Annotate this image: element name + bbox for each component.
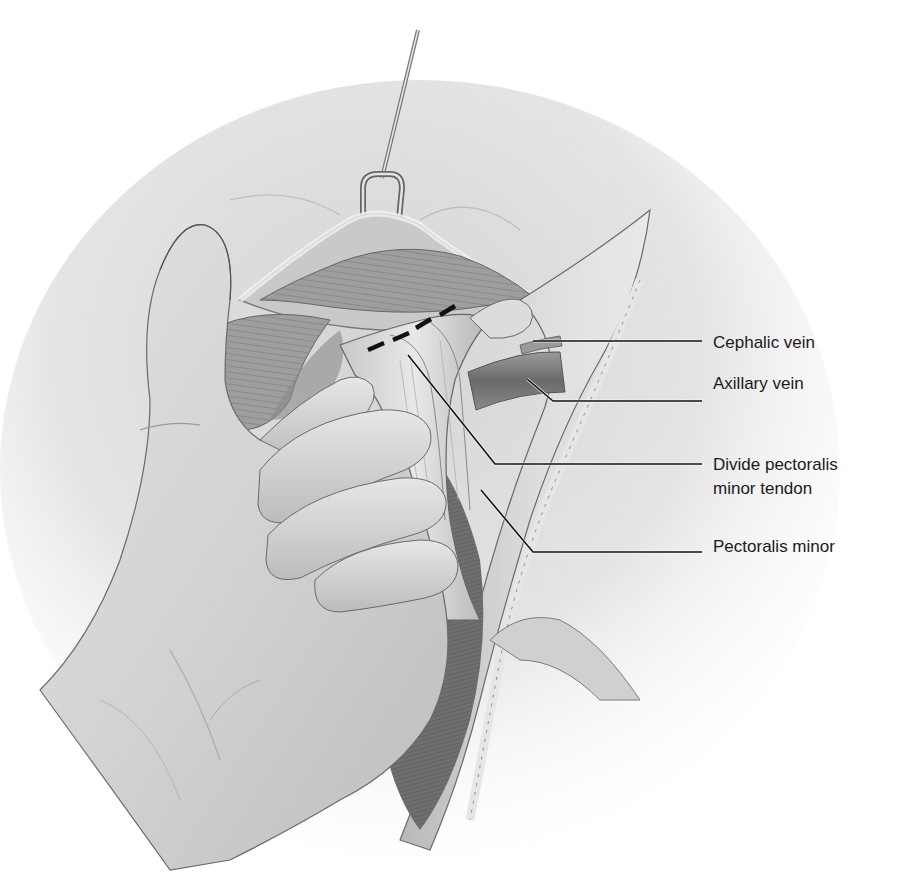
- label-cephalic-vein: Cephalic vein: [713, 331, 815, 355]
- label-divide-pectoralis-minor-tendon: Divide pectoralis minor tendon: [713, 453, 838, 501]
- label-pectoralis-minor: Pectoralis minor: [713, 535, 835, 559]
- label-text: Cephalic vein: [713, 331, 815, 355]
- surgical-illustration: [0, 0, 907, 895]
- label-axillary-vein: Axillary vein: [713, 372, 804, 396]
- label-text: Axillary vein: [713, 372, 804, 396]
- label-text: Divide pectoralis: [713, 453, 838, 477]
- label-text: minor tendon: [713, 477, 838, 501]
- label-text: Pectoralis minor: [713, 535, 835, 559]
